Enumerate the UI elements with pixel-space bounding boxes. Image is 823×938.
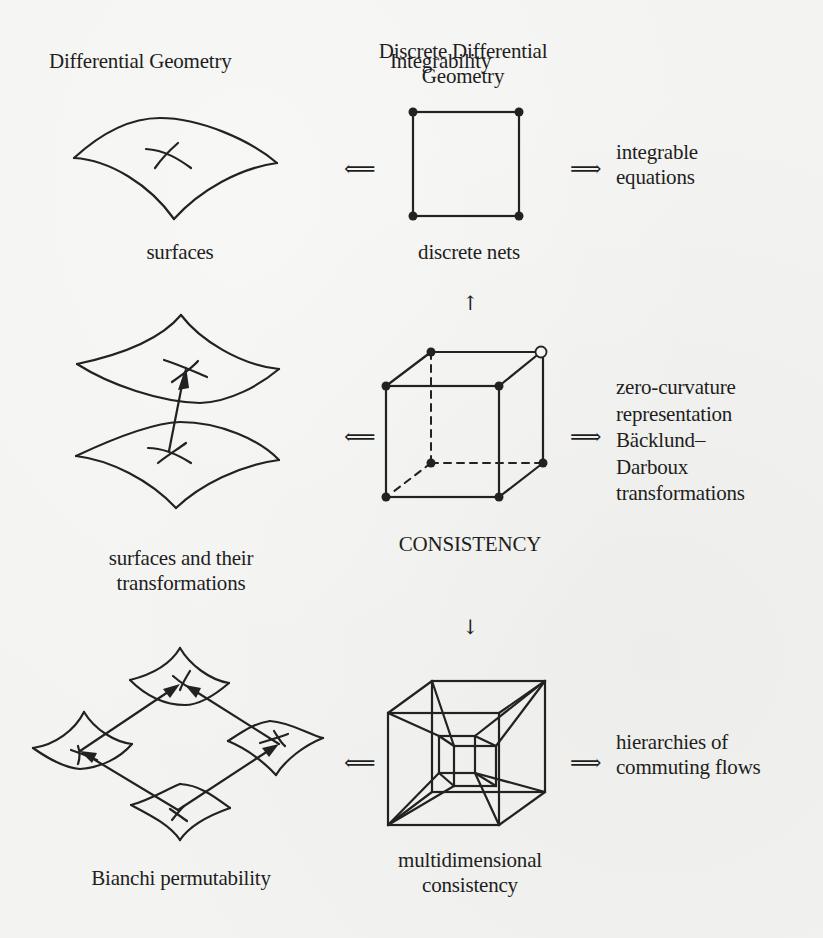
cube-figure	[382, 347, 548, 502]
label-line: surfaces and their	[109, 546, 254, 571]
label-bianchi-permutability: Bianchi permutability	[91, 866, 271, 891]
label-line: Darboux	[616, 454, 745, 481]
label-hierarchies-commuting-flows: hierarchies of commuting flows	[616, 730, 761, 780]
label-multidimensional-consistency: multidimensional consistency	[398, 848, 542, 898]
label-line: zero-curvature	[616, 374, 745, 401]
implied-by-arrow-row3: ⟸	[344, 752, 376, 774]
label-line: transformations	[616, 480, 745, 507]
label-consistency: CONSISTENCY	[399, 532, 541, 557]
diagram-page: Differential Geometry Discrete Different…	[0, 0, 823, 938]
label-zero-curvature-backlund-darboux: zero-curvature representation Bäcklund– …	[616, 374, 745, 507]
label-line: transformations	[109, 571, 254, 596]
implies-arrow-row2: ⟹	[570, 426, 602, 448]
down-arrow: ↓	[462, 616, 479, 638]
bianchi-figure	[33, 648, 323, 840]
label-line: consistency	[398, 873, 542, 898]
label-line: equations	[616, 165, 698, 190]
implies-arrow-row1: ⟹	[570, 158, 602, 180]
tesseract-figure	[388, 681, 545, 825]
surface-patch-figure	[74, 118, 277, 219]
label-line: multidimensional	[398, 848, 542, 873]
implied-by-arrow-row1: ⟸	[344, 158, 376, 180]
label-integrable-equations: integrable equations	[616, 140, 698, 190]
label-surfaces: surfaces	[146, 240, 213, 265]
label-discrete-nets: discrete nets	[418, 240, 520, 265]
label-line: hierarchies of	[616, 730, 761, 755]
label-line: integrable	[616, 140, 698, 165]
up-arrow: ↑	[462, 292, 479, 314]
two-surfaces-figure	[76, 315, 279, 508]
label-surfaces-and-transformations: surfaces and their transformations	[109, 546, 254, 596]
square-net-figure	[409, 108, 524, 221]
label-line: representation	[616, 401, 745, 428]
label-line: commuting flows	[616, 755, 761, 780]
implies-arrow-row3: ⟹	[570, 752, 602, 774]
implied-by-arrow-row2: ⟸	[344, 426, 376, 448]
label-line: Bäcklund–	[616, 427, 745, 454]
